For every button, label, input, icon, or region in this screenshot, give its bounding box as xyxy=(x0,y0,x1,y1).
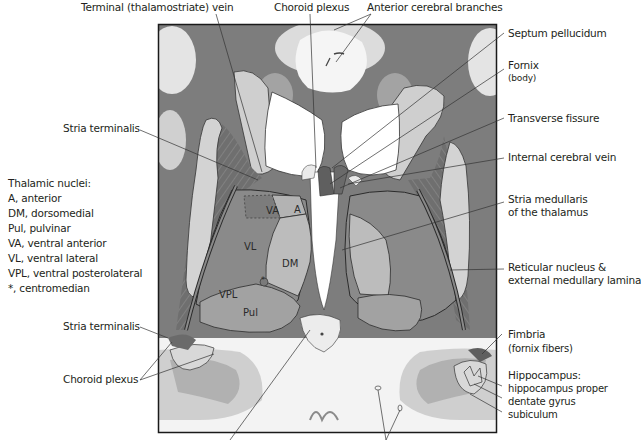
label-stria-terminalis-bottom: Stria terminalis xyxy=(63,320,140,333)
label-stria-terminalis-top: Stria terminalis xyxy=(63,122,140,135)
label-hippocampus: Hippocampus: xyxy=(508,369,581,382)
legend-item-ventral-lateral: VL, ventral lateral xyxy=(8,251,142,266)
label-fornix: Fornix xyxy=(508,59,539,72)
legend-item-dorsomedial: DM, dorsomedial xyxy=(8,206,142,221)
label-dentate-gyrus: dentate gyrus xyxy=(508,396,575,407)
legend-item-anterior: A, anterior xyxy=(8,191,142,206)
nucleus-label-vpl: VPL xyxy=(219,289,237,300)
legend-title: Thalamic nuclei: xyxy=(8,176,142,191)
label-reticular-nucleus: Reticular nucleus & xyxy=(508,261,606,274)
legend-item-pulvinar: Pul, pulvinar xyxy=(8,221,142,236)
label-transverse-fissure: Transverse fissure xyxy=(508,112,599,125)
legend-item-ventral-anterior: VA, ventral anterior xyxy=(8,236,142,251)
label-fimbria: Fimbria xyxy=(508,328,545,341)
label-subiculum: subiculum xyxy=(508,409,558,420)
thalamic-nuclei-legend: Thalamic nuclei: A, anterior DM, dorsome… xyxy=(8,176,142,296)
label-fornix-body: (body) xyxy=(508,73,536,84)
label-choroid-plexus-top: Choroid plexus xyxy=(274,1,349,14)
label-terminal-vein: Terminal (thalamostriate) vein xyxy=(81,1,234,14)
label-fimbria-sub: (fornix fibers) xyxy=(508,342,573,355)
label-external-medullary-lamina: external medullary lamina xyxy=(508,274,641,287)
label-choroid-plexus-bottom: Choroid plexus xyxy=(63,373,138,386)
label-internal-cerebral-vein: Internal cerebral vein xyxy=(508,151,616,164)
label-septum-pellucidum: Septum pellucidum xyxy=(508,27,607,40)
legend-item-centromedian: *, centromedian xyxy=(8,281,142,296)
nucleus-label-cm: * xyxy=(261,276,265,285)
nucleus-label-a: A xyxy=(294,204,301,215)
label-hippocampus-proper: hippocampus proper xyxy=(508,383,608,394)
label-anterior-cerebral-branches: Anterior cerebral branches xyxy=(367,1,502,14)
label-stria-medullaris-2: of the thalamus xyxy=(508,206,588,219)
nucleus-label-dm: DM xyxy=(282,258,298,269)
legend-item-ventral-posterolateral: VPL, ventral posterolateral xyxy=(8,266,142,281)
label-stria-medullaris: Stria medullaris xyxy=(508,193,588,206)
nucleus-label-va: VA xyxy=(266,205,279,216)
nucleus-label-pul: Pul xyxy=(243,307,258,318)
nucleus-label-vl: VL xyxy=(244,241,256,252)
